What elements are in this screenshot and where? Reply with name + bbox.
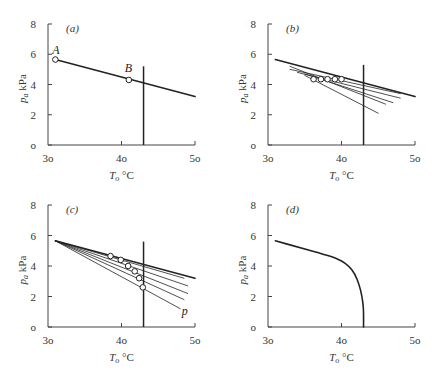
y-axis-title: pa kPa <box>16 74 30 104</box>
data-point-marker <box>332 76 338 82</box>
series-line <box>55 241 180 309</box>
figure: o24683o4o5oTo °Cpa kPa(a)ABo24683o4o5oTo… <box>0 0 439 374</box>
data-point-marker <box>118 257 124 263</box>
y-axis-title: pa kPa <box>236 74 250 104</box>
data-point-marker <box>339 76 345 82</box>
panel-label: (c) <box>66 203 79 216</box>
data-point-marker <box>53 57 59 63</box>
y-tick-label: 2 <box>31 109 37 121</box>
y-tick-label: 2 <box>251 109 257 121</box>
annotation: p <box>181 304 188 318</box>
data-point-marker <box>136 275 142 281</box>
y-tick-label: 8 <box>251 199 257 211</box>
data-point-marker <box>325 76 331 82</box>
y-tick-label: o <box>251 139 257 151</box>
x-tick-label: 5o <box>190 152 202 164</box>
data-point-marker <box>318 76 324 82</box>
y-tick-label: 2 <box>251 291 257 303</box>
y-tick-label: 4 <box>31 260 37 272</box>
x-tick-label: 3o <box>263 334 275 346</box>
x-tick-label: 3o <box>263 152 275 164</box>
x-tick-label: 4o <box>336 152 348 164</box>
data-point-marker <box>311 76 317 82</box>
x-tick-label: 5o <box>410 152 422 164</box>
panel-d: o24683o4o5oTo °Cpa kPa(d) <box>236 199 421 365</box>
x-tick-label: 3o <box>43 152 55 164</box>
y-tick-label: 8 <box>31 199 37 211</box>
y-tick-label: 6 <box>31 48 37 60</box>
x-tick-label: 4o <box>336 334 348 346</box>
y-tick-label: 8 <box>31 18 37 30</box>
y-tick-label: 8 <box>251 18 257 30</box>
panel-a: o24683o4o5oTo °Cpa kPa(a)AB <box>16 18 201 183</box>
y-tick-label: 4 <box>31 79 37 91</box>
data-point-marker <box>108 253 114 259</box>
point-label-b: B <box>125 61 133 75</box>
panel-label: (b) <box>286 22 299 35</box>
series-line <box>55 241 187 286</box>
panel-c: o24683o4o5oTo °Cpa kPa(c)p <box>16 199 201 365</box>
y-tick-label: o <box>251 321 257 333</box>
y-axis-title: pa kPa <box>16 256 30 286</box>
y-tick-label: 2 <box>31 291 37 303</box>
y-tick-label: 6 <box>31 230 37 242</box>
panel-b: o24683o4o5oTo °Cpa kPa(b) <box>236 18 421 183</box>
panel-label: (d) <box>286 203 299 216</box>
y-tick-label: o <box>31 139 37 151</box>
x-tick-label: 4o <box>116 152 128 164</box>
x-tick-label: 4o <box>116 334 128 346</box>
y-tick-label: 4 <box>251 79 257 91</box>
x-axis-title: To °C <box>109 351 134 365</box>
y-tick-label: 6 <box>251 230 257 242</box>
x-tick-label: 3o <box>43 334 55 346</box>
y-tick-label: 4 <box>251 260 257 272</box>
data-point-marker <box>125 263 131 269</box>
data-point-marker <box>126 77 132 83</box>
chart-canvas: o24683o4o5oTo °Cpa kPa(a)ABo24683o4o5oTo… <box>0 0 439 374</box>
series-line <box>55 241 187 294</box>
x-axis-title: To °C <box>109 169 134 183</box>
x-tick-label: 5o <box>410 334 422 346</box>
y-tick-label: 6 <box>251 48 257 60</box>
x-axis-title: To °C <box>329 169 354 183</box>
panel-label: (a) <box>66 22 79 35</box>
data-point-marker <box>132 269 138 275</box>
x-axis-title: To °C <box>329 351 354 365</box>
x-tick-label: 5o <box>190 334 202 346</box>
series-line <box>275 60 415 97</box>
series-line <box>275 241 363 327</box>
point-label-a: A <box>51 43 60 57</box>
y-axis-title: pa kPa <box>236 256 250 286</box>
y-tick-label: o <box>31 321 37 333</box>
data-point-marker <box>140 285 146 291</box>
